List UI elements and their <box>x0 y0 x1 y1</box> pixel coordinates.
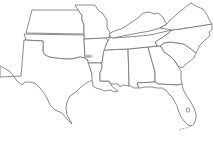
svg-text:ARK: ARK <box>87 55 92 57</box>
southern-us-map: ARK <box>0 0 213 157</box>
state-mississippi[interactable] <box>100 49 129 87</box>
arkansas-label: ARK <box>86 55 92 58</box>
state-florida[interactable] <box>137 82 196 126</box>
state-kansas[interactable] <box>26 10 84 34</box>
florida-keys <box>179 126 191 130</box>
lake-okeechobee <box>186 108 189 112</box>
